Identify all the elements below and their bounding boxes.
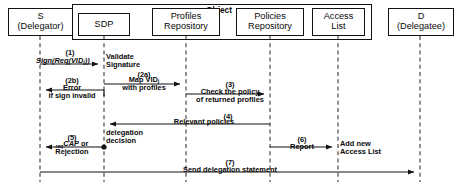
message-label-1: Sign(Req(VIDj)) <box>36 57 90 65</box>
message-label-5: reqCAP or Rejection <box>55 140 88 157</box>
message-label-2a: Map VIDj with profiles <box>122 76 166 93</box>
error-line-2: if sign invalid <box>48 91 95 100</box>
participant-role-access: List <box>331 22 345 32</box>
check-line-2: of returned profiles <box>196 95 264 104</box>
participant-name-sdp: SDP <box>95 20 114 30</box>
message-label-1-main: Sign(Req(VID <box>36 56 83 65</box>
addnew-line-2: Access List <box>340 147 381 156</box>
participant-role-policies: Repository <box>248 22 292 32</box>
message-label-7: Send delegation statement <box>183 166 277 174</box>
message-label-1-sub: j <box>83 59 85 65</box>
message-label-delegation-decision: delegation decision <box>106 129 143 146</box>
message-label-1-tail: )) <box>85 56 90 65</box>
message-label-4: Relevant policies <box>174 118 234 126</box>
validate-line-2: Signature <box>106 60 140 69</box>
participant-box-s[interactable]: S (Delegator) <box>8 8 73 36</box>
delegation-line-2: decision <box>106 136 136 145</box>
message-label-2b: Error if sign invalid <box>48 84 95 101</box>
participant-box-profiles-repository[interactable]: Profiles Repository <box>152 8 220 36</box>
message-label-6: Report <box>290 143 314 151</box>
participant-box-d[interactable]: D (Delegatee) <box>388 8 454 36</box>
sequence-diagram-canvas: Object S (Delegator) SDP Profiles Reposi… <box>0 0 460 185</box>
message-label-3: Check the policy of returned profiles <box>196 88 264 105</box>
cap-prefix: req <box>56 143 64 149</box>
participant-box-access-list[interactable]: Access List <box>312 8 365 36</box>
participant-role-d: (Delegatee) <box>397 22 445 32</box>
message-label-validate-signature: Validate Signature <box>106 53 140 70</box>
participant-role-s: (Delegator) <box>18 22 64 32</box>
map-sub: j <box>158 78 160 84</box>
participant-box-policies-repository[interactable]: Policies Repository <box>236 8 304 36</box>
message-label-add-new-access-list: Add new Access List <box>340 140 381 157</box>
participant-role-profiles: Repository <box>164 22 208 32</box>
participant-box-sdp[interactable]: SDP <box>78 13 130 36</box>
map-line-2: with profiles <box>122 83 166 92</box>
